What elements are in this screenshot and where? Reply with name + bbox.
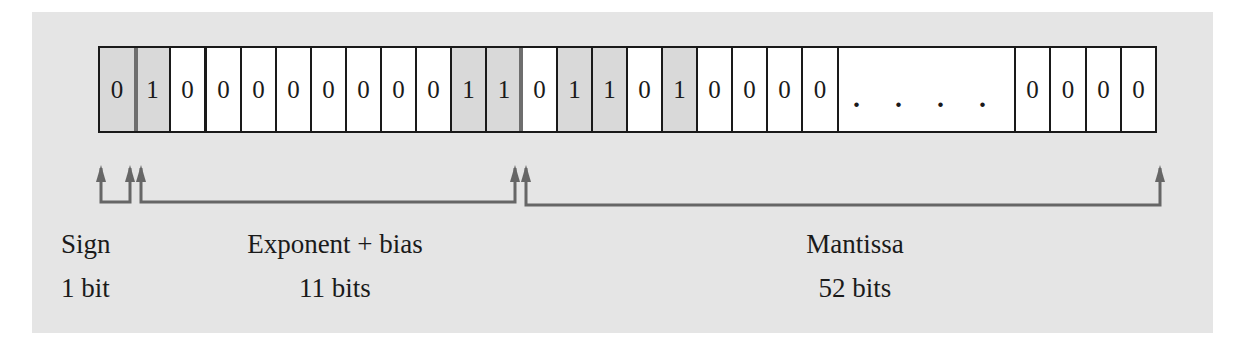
- field-name: Sign: [61, 222, 111, 266]
- field-size: 11 bits: [230, 266, 440, 310]
- mantissa-field-label: Mantissa 52 bits: [780, 222, 930, 310]
- sign-field-label: Sign 1 bit: [61, 222, 111, 310]
- exponent-field-label: Exponent + bias 11 bits: [230, 222, 440, 310]
- mantissa-bracket-arrow: [521, 165, 1165, 205]
- field-name: Exponent + bias: [230, 222, 440, 266]
- field-size: 1 bit: [61, 266, 111, 310]
- field-bracket-arrows: [0, 0, 1244, 359]
- field-name: Mantissa: [780, 222, 930, 266]
- exponent-bracket-arrow: [136, 165, 520, 202]
- field-size: 52 bits: [780, 266, 930, 310]
- sign-bracket-arrow: [96, 165, 135, 202]
